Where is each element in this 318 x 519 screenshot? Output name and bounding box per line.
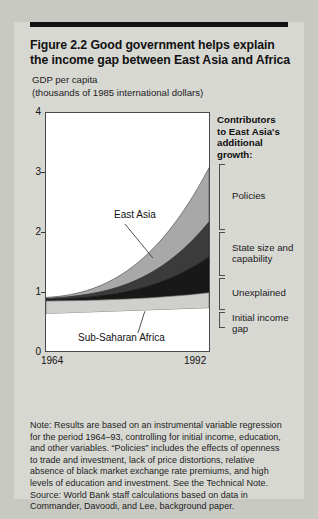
legend-bracket-state-size-and-capability xyxy=(219,232,225,276)
y-tick-label-0: 0 xyxy=(27,346,41,357)
plot-area xyxy=(45,112,210,352)
legend-item-unexplained: Unexplained xyxy=(232,287,306,298)
legend-heading-line4: growth: xyxy=(217,149,303,161)
y-tick-label-1: 1 xyxy=(27,286,41,297)
legend-bracket-unexplained xyxy=(219,278,225,310)
area-chart-svg xyxy=(46,113,209,351)
figure-note: Note: Results are based on an instrument… xyxy=(30,420,288,513)
legend-bracket-policies xyxy=(219,164,225,230)
x-tick-label-1964: 1964 xyxy=(41,355,63,366)
sub-saharan-africa-label: Sub-Saharan Africa xyxy=(78,332,165,343)
figure-source-text: Source: World Bank staff calculations ba… xyxy=(30,490,248,512)
legend-heading-line2: to East Asia's xyxy=(217,126,303,138)
region-sub-saharan-africa xyxy=(46,308,209,351)
legend-heading-line3: additional xyxy=(217,137,303,149)
legend-item-initial-income-gap: Initial income gap xyxy=(232,312,306,335)
east-asia-leader-line xyxy=(125,224,153,258)
east-asia-label: East Asia xyxy=(114,209,156,220)
legend-item-policies: Policies xyxy=(232,190,306,201)
legend-bracket-initial-income-gap xyxy=(219,312,225,328)
y-tick-label-3: 3 xyxy=(27,166,41,177)
y-tick-label-4: 4 xyxy=(27,106,41,117)
x-tick-label-1992: 1992 xyxy=(184,355,206,366)
figure-card: Figure 2.2 Good government helps explain… xyxy=(14,22,304,499)
y-tick-label-2: 2 xyxy=(27,226,41,237)
legend-heading-line1: Contributors xyxy=(217,114,303,126)
figure-note-text: Note: Results are based on an instrument… xyxy=(30,420,282,488)
legend-item-state-size-and-capability: State size and capability xyxy=(232,242,306,265)
legend-heading: Contributors to East Asia's additional g… xyxy=(217,114,303,160)
